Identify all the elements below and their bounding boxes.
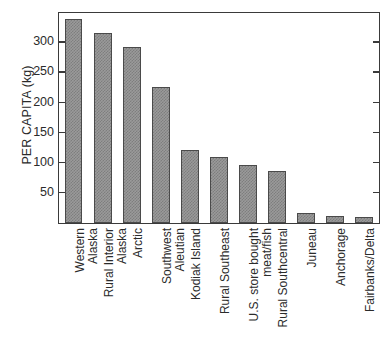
x-axis-tick-label: Juneau (292, 226, 321, 348)
bar (123, 47, 141, 223)
plot-inner: 50100150200250300 (59, 13, 379, 223)
x-axis-tick-label: WesternAlaska (59, 226, 88, 348)
bar (152, 87, 170, 223)
x-axis-tick-label: SouthwestAleutian (146, 226, 175, 348)
y-axis-tick-right (373, 102, 379, 103)
bar (268, 171, 286, 223)
x-axis-tick-label: U.S. store boughtmeat/fish (234, 226, 263, 348)
y-axis-tick-label: 250 (33, 65, 54, 78)
bar (326, 216, 344, 223)
x-axis-tick-labels: WesternAlaskaRural InteriorAlaskaArcticS… (58, 226, 380, 348)
bar-chart-figure: PER CAPITA (kg) 50100150200250300 Wester… (0, 0, 389, 348)
y-axis-title: PER CAPITA (kg) (20, 30, 34, 200)
x-axis-tick-label-text: Fairbanks/Delta (364, 228, 377, 312)
bar (181, 150, 199, 223)
x-axis-tick-label-text: Rural Southcentral (277, 228, 290, 327)
y-axis-tick-label: 200 (33, 95, 54, 108)
x-axis-tick-label-text: Kodiak Island (190, 228, 203, 300)
plot-area: 50100150200250300 (58, 12, 380, 224)
y-axis-tick-label: 50 (40, 186, 54, 199)
bar (239, 165, 257, 223)
x-axis-tick-label-text: Rural Southeast (219, 228, 232, 314)
x-axis-tick-label: Rural Southcentral (263, 226, 292, 348)
y-axis-tick-label: 300 (33, 35, 54, 48)
bar (65, 19, 83, 223)
x-axis-tick-label: Kodiak Island (175, 226, 204, 348)
y-axis-tick-right (373, 192, 379, 193)
y-axis-tick-right (373, 132, 379, 133)
y-axis-tick-right (373, 41, 379, 42)
x-axis-tick-label: Fairbanks/Delta (350, 226, 379, 348)
x-axis-tick-label: Anchorage (321, 226, 350, 348)
bar (94, 33, 112, 224)
y-axis-tick-right (373, 71, 379, 72)
y-axis-tick-right (373, 162, 379, 163)
bar (297, 213, 315, 223)
bar (355, 217, 373, 223)
x-axis-tick-label: Arctic (117, 226, 146, 348)
x-axis-tick-label-text: Juneau (306, 228, 319, 267)
bar (210, 157, 228, 223)
x-axis-tick-label-text: Arctic (132, 228, 145, 258)
y-axis-tick-label: 100 (33, 156, 54, 169)
y-axis-tick-label: 150 (33, 126, 54, 139)
x-axis-tick-label: Rural Southeast (204, 226, 233, 348)
x-axis-tick-label: Rural InteriorAlaska (88, 226, 117, 348)
x-axis-tick-label-text: Anchorage (335, 228, 348, 286)
